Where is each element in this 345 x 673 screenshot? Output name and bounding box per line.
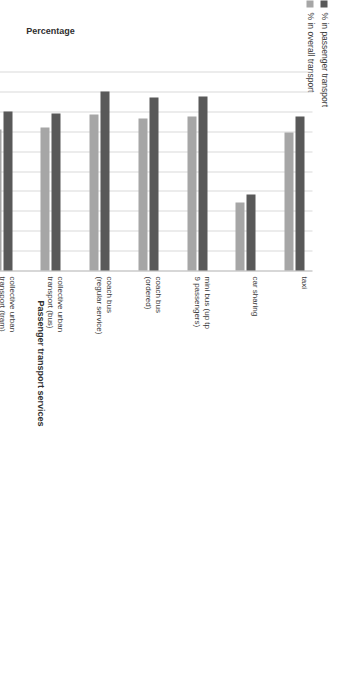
bar-overall — [0, 129, 1, 270]
category-label: collective urban transport (bus) — [44, 276, 64, 334]
bar-overall — [40, 127, 49, 270]
bar-overall — [138, 118, 147, 270]
legend-swatch-overall-transport — [307, 0, 314, 7]
category-axis-title: Passenger transport services — [35, 300, 45, 426]
bar-passenger — [3, 111, 12, 270]
category-label: coach bus (regular service) — [93, 276, 113, 334]
bar-overall — [89, 114, 98, 270]
bar-passenger — [149, 97, 158, 270]
bar-passenger — [246, 194, 255, 270]
bar-passenger — [198, 96, 207, 270]
gridline — [0, 91, 312, 92]
bar-passenger — [100, 91, 109, 270]
bar-overall — [235, 202, 244, 270]
legend-label-passenger-transport: % in passenger transport — [319, 12, 329, 107]
category-label: car sharing — [249, 276, 259, 334]
category-label: taxi — [298, 276, 308, 334]
bar-overall — [284, 132, 293, 270]
value-axis-title: Percentage — [26, 25, 75, 35]
legend-swatch-passenger-transport — [321, 0, 328, 7]
legend-item-passenger-transport: % in passenger transport — [319, 0, 329, 300]
bar-overall — [187, 116, 196, 270]
bar-passenger — [295, 116, 304, 270]
category-label: mini bus (up tp 9 passengers) — [191, 276, 211, 334]
category-label: collective urban transport (tram) — [0, 276, 16, 334]
chart-canvas: % in passenger transport % in overall tr… — [0, 0, 345, 673]
gridline — [0, 71, 312, 72]
category-label: coach bus (ordered) — [142, 276, 162, 334]
bar-passenger — [51, 113, 60, 270]
